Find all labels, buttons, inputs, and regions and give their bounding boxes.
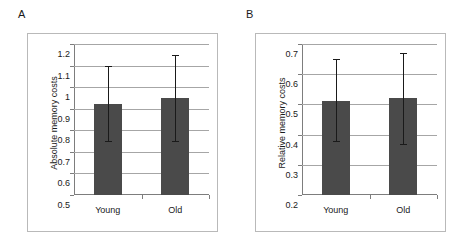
- error-bar-old: [403, 53, 404, 144]
- y-tick-labels-b: 0.20.30.40.50.60.7: [264, 44, 298, 195]
- error-bar-young: [108, 66, 109, 142]
- x-category-label-old: Old: [168, 205, 182, 215]
- error-cap-upper: [400, 53, 407, 54]
- error-cap-upper: [105, 66, 112, 67]
- panel-a: A Absolute memory costs 0.50.60.70.80.91…: [0, 0, 227, 249]
- y-tick-label: 0.6: [285, 79, 298, 89]
- error-bar-young: [336, 59, 337, 141]
- error-bar-old: [175, 55, 176, 141]
- y-tick-mark: [70, 109, 74, 110]
- y-tick-label: 0.2: [285, 200, 298, 210]
- y-tick-label: 1: [65, 92, 70, 102]
- x-tick-mark: [370, 195, 371, 199]
- y-tick-label: 0.7: [285, 49, 298, 59]
- error-cap-lower: [400, 144, 407, 145]
- plot-area-a: YoungOld: [74, 44, 209, 195]
- error-cap-lower: [172, 141, 179, 142]
- chart-frame-a: Absolute memory costs 0.50.60.70.80.911.…: [27, 33, 218, 232]
- y-tick-label: 0.5: [285, 109, 298, 119]
- y-tick-mark: [298, 104, 302, 105]
- panel-b: B Relative memory costs 0.20.30.40.50.60…: [228, 0, 455, 249]
- y-tick-mark: [70, 130, 74, 131]
- error-cap-lower: [333, 141, 340, 142]
- y-tick-label: 0.6: [57, 178, 70, 188]
- y-tick-mark: [298, 44, 302, 45]
- y-tick-mark: [70, 44, 74, 45]
- y-tick-mark: [298, 74, 302, 75]
- y-tick-mark: [70, 66, 74, 67]
- y-tick-label: 1.1: [57, 71, 70, 81]
- y-axis-line: [74, 44, 75, 195]
- y-tick-mark: [70, 152, 74, 153]
- figure-container: A Absolute memory costs 0.50.60.70.80.91…: [0, 0, 455, 249]
- y-axis-line: [302, 44, 303, 195]
- x-tick-mark: [142, 195, 143, 199]
- x-category-label-old: Old: [396, 205, 410, 215]
- chart-frame-b: Relative memory costs 0.20.30.40.50.60.7…: [255, 33, 446, 232]
- y-tick-mark: [298, 195, 302, 196]
- gridline: [302, 74, 437, 75]
- y-tick-labels-a: 0.50.60.70.80.911.11.2: [36, 44, 70, 195]
- gridline: [74, 44, 209, 45]
- plot-area-b: YoungOld: [302, 44, 437, 195]
- gridline: [74, 87, 209, 88]
- error-cap-lower: [105, 141, 112, 142]
- x-category-label-young: Young: [323, 205, 348, 215]
- x-category-label-young: Young: [95, 205, 120, 215]
- y-tick-label: 0.7: [57, 157, 70, 167]
- y-tick-label: 0.9: [57, 114, 70, 124]
- y-tick-mark: [298, 165, 302, 166]
- y-tick-label: 0.5: [57, 200, 70, 210]
- y-tick-label: 0.4: [285, 140, 298, 150]
- y-tick-label: 0.8: [57, 135, 70, 145]
- panel-label-b: B: [246, 8, 254, 20]
- gridline: [74, 66, 209, 67]
- y-tick-label: 0.3: [285, 170, 298, 180]
- error-cap-upper: [172, 55, 179, 56]
- x-tick-mark: [209, 195, 210, 199]
- panel-label-a: A: [18, 8, 26, 20]
- y-tick-mark: [298, 135, 302, 136]
- y-tick-mark: [70, 87, 74, 88]
- y-tick-mark: [70, 195, 74, 196]
- y-tick-label: 1.2: [57, 49, 70, 59]
- x-tick-mark: [437, 195, 438, 199]
- gridline: [302, 44, 437, 45]
- error-cap-upper: [333, 59, 340, 60]
- y-tick-mark: [70, 173, 74, 174]
